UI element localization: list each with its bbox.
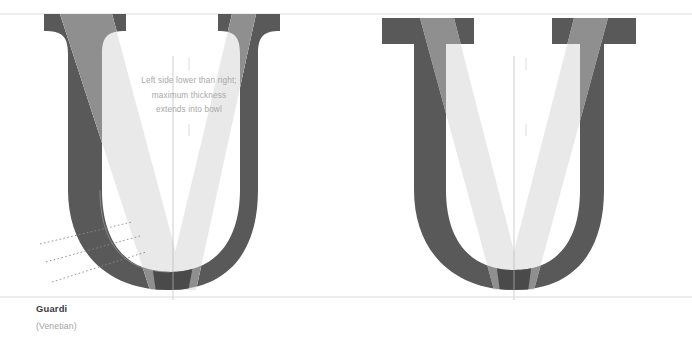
annotation-guardi: Left side lower than right; maximum thic…	[99, 74, 279, 118]
annotation-line: Left side lower than right;	[99, 74, 279, 89]
caption-title: Guardi	[36, 303, 77, 315]
panel-guardi: Left side lower than right; maximum thic…	[0, 0, 346, 357]
baseline-rule-right	[346, 297, 692, 298]
caption-subtitle: (Venetian)	[36, 320, 77, 332]
baseline-rule-left	[0, 297, 346, 298]
annotation-line: maximum thickness	[99, 89, 279, 104]
typography-comparison-figure: Left side lower than right; maximum thic…	[0, 0, 692, 357]
top-rule-right	[346, 14, 692, 15]
caption-guardi: Guardi (Venetian)	[36, 303, 77, 332]
panel-serifa: Symmetrical stems – right appears heavie…	[346, 0, 692, 357]
glyph-stage-guardi	[0, 0, 346, 300]
annotation-line: extends into bowl	[99, 103, 279, 118]
glyph-stage-serifa	[346, 0, 692, 300]
